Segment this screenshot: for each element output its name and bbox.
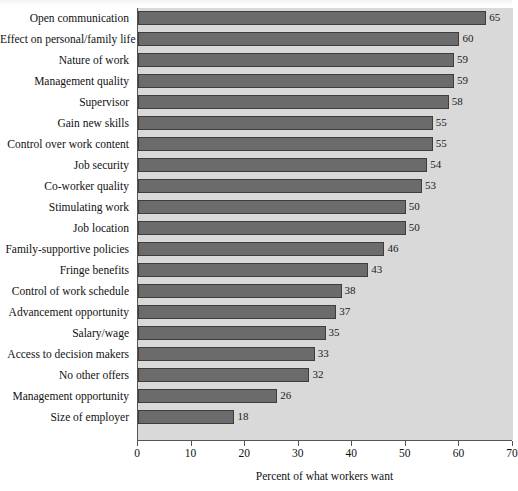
- x-axis-tick-labels: 010203040506070: [137, 447, 512, 463]
- x-tick-label: 0: [134, 447, 140, 459]
- bar-row: 35: [138, 323, 513, 344]
- bar: [138, 116, 433, 130]
- bar-row: 18: [138, 407, 513, 428]
- bar: [138, 347, 315, 361]
- bar-value-label: 37: [339, 303, 350, 320]
- category-label: Stimulating work: [0, 197, 133, 218]
- bar-row: 37: [138, 302, 513, 323]
- bar-row: 50: [138, 218, 513, 239]
- category-label: Management opportunity: [0, 386, 133, 407]
- bar-value-label: 50: [409, 198, 420, 215]
- bar-row: 46: [138, 239, 513, 260]
- category-label: Nature of work: [0, 50, 133, 71]
- category-label: Effect on personal/family life: [0, 29, 133, 50]
- category-label: No other offers: [0, 365, 133, 386]
- bar-value-label: 43: [371, 261, 382, 278]
- bar: [138, 368, 309, 382]
- x-tick: [512, 441, 513, 446]
- x-axis-title: Percent of what workers want: [137, 470, 512, 482]
- bar: [138, 263, 368, 277]
- bar: [138, 179, 422, 193]
- category-label: Gain new skills: [0, 113, 133, 134]
- bar: [138, 53, 454, 67]
- x-tick-label: 70: [506, 447, 518, 459]
- bar-row: 65: [138, 8, 513, 29]
- bar-row: 60: [138, 29, 513, 50]
- x-tick-label: 50: [399, 447, 411, 459]
- bar-value-label: 35: [329, 324, 340, 341]
- bar: [138, 326, 326, 340]
- bar-row: 55: [138, 134, 513, 155]
- bar: [138, 284, 342, 298]
- bar-row: 54: [138, 155, 513, 176]
- bar-row: 50: [138, 197, 513, 218]
- category-label: Management quality: [0, 71, 133, 92]
- category-label: Co-worker quality: [0, 176, 133, 197]
- bar-value-label: 58: [452, 93, 463, 110]
- category-label: Salary/wage: [0, 323, 133, 344]
- bar: [138, 242, 384, 256]
- bar-row: 33: [138, 344, 513, 365]
- category-label: Supervisor: [0, 92, 133, 113]
- x-tick: [191, 441, 192, 446]
- bar: [138, 11, 486, 25]
- bar-value-label: 53: [425, 177, 436, 194]
- bar-row: 32: [138, 365, 513, 386]
- bar-row: 55: [138, 113, 513, 134]
- bar-value-label: 54: [430, 156, 441, 173]
- plot-area: 6560595958555554535050464338373533322618: [137, 8, 513, 440]
- bar: [138, 158, 427, 172]
- category-label: Job security: [0, 155, 133, 176]
- category-label: Access to decision makers: [0, 344, 133, 365]
- bar-row: 59: [138, 50, 513, 71]
- bar-value-label: 65: [489, 9, 500, 26]
- bar-value-label: 46: [387, 240, 398, 257]
- category-label: Job location: [0, 218, 133, 239]
- bar-value-label: 55: [436, 135, 447, 152]
- x-tick: [298, 441, 299, 446]
- x-tick: [137, 441, 138, 446]
- x-tick-label: 20: [238, 447, 250, 459]
- bar-row: 43: [138, 260, 513, 281]
- bar-row: 38: [138, 281, 513, 302]
- bar-value-label: 33: [318, 345, 329, 362]
- cropped-caption-artifact: [0, 0, 512, 7]
- bar: [138, 32, 459, 46]
- x-tick-label: 30: [292, 447, 304, 459]
- x-axis-ticks: [137, 441, 512, 446]
- bar-value-label: 32: [312, 366, 323, 383]
- bar-row: 58: [138, 92, 513, 113]
- bar: [138, 200, 406, 214]
- bar-value-label: 26: [280, 387, 291, 404]
- category-label: Size of employer: [0, 407, 133, 428]
- x-tick-label: 10: [185, 447, 197, 459]
- category-label: Open communication: [0, 8, 133, 29]
- category-axis-labels: Open communicationEffect on personal/fam…: [0, 8, 133, 440]
- bar: [138, 95, 449, 109]
- bar-value-label: 60: [462, 30, 473, 47]
- bar: [138, 74, 454, 88]
- x-tick-label: 60: [453, 447, 465, 459]
- category-label: Family-supportive policies: [0, 239, 133, 260]
- category-label: Control of work schedule: [0, 281, 133, 302]
- bar: [138, 221, 406, 235]
- bar: [138, 389, 277, 403]
- bar-value-label: 59: [457, 51, 468, 68]
- x-tick: [244, 441, 245, 446]
- bar-value-label: 38: [345, 282, 356, 299]
- bar: [138, 305, 336, 319]
- category-label: Fringe benefits: [0, 260, 133, 281]
- category-label: Control over work content: [0, 134, 133, 155]
- x-tick-label: 40: [346, 447, 358, 459]
- bar-value-label: 50: [409, 219, 420, 236]
- bar-row: 53: [138, 176, 513, 197]
- bar-row: 59: [138, 71, 513, 92]
- bar-value-label: 18: [237, 408, 248, 425]
- bar-value-label: 59: [457, 72, 468, 89]
- bar: [138, 137, 433, 151]
- bar: [138, 410, 234, 424]
- category-label: Advancement opportunity: [0, 302, 133, 323]
- x-tick: [351, 441, 352, 446]
- x-tick: [458, 441, 459, 446]
